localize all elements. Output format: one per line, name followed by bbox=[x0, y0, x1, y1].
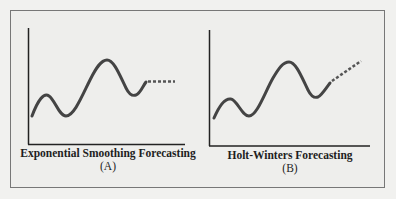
panel-b-label: (B) bbox=[206, 162, 374, 175]
panel-b-forecast-line bbox=[332, 61, 361, 81]
panel-b-chart bbox=[209, 30, 370, 146]
panel-b-title: Holt-Winters Forecasting bbox=[227, 149, 352, 161]
panel-b-data-line bbox=[214, 62, 330, 118]
panel-a-label: (A) bbox=[20, 160, 196, 173]
panel-a-chart bbox=[28, 28, 185, 145]
panel-b-caption: Holt-Winters Forecasting (B) bbox=[206, 149, 374, 175]
panel-a-data-line bbox=[32, 60, 146, 116]
panel-a-title: Exponential Smoothing Forecasting bbox=[20, 147, 196, 159]
panel-a-caption: Exponential Smoothing Forecasting (A) bbox=[20, 147, 196, 173]
